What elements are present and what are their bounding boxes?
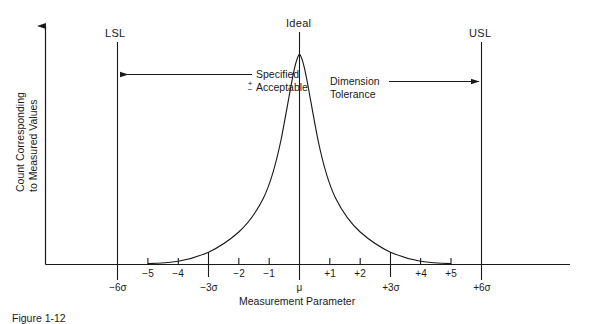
x-tick-label-minus4: −4 [168,268,188,279]
acceptable-annotation-row: + − Acceptable [246,81,306,94]
x-tick-label-plus5: +5 [441,268,461,279]
y-axis-label-line2: to Measured Values [27,99,40,192]
sigma-label-minus3: −3σ [195,282,223,293]
dimension-annotation-line2: Tolerance [330,88,376,101]
x-tick-label-minus2: −2 [229,268,249,279]
lsl-label: LSL [105,27,125,39]
sigma-label-plus3: +3σ [377,282,405,293]
specified-annotation-line2: Acceptable [256,81,308,94]
usl-label: USL [469,27,491,39]
x-axis-label: Measurement Parameter [239,295,355,307]
sigma-label-minus6: −6σ [104,282,132,293]
x-tick-label-plus2: +2 [350,268,370,279]
plus-minus-icon: + − [246,81,254,93]
x-tick-label-minus5: −5 [138,268,158,279]
x-tick-label-minus1: −1 [259,268,279,279]
ideal-label: Ideal [286,17,311,29]
sigma-label-plus6: +6σ [468,282,496,293]
x-tick-label-plus4: +4 [411,268,431,279]
mu-label: μ [292,282,307,293]
x-tick-label-plus1: +1 [320,268,340,279]
figure-caption: Figure 1-12 [12,312,66,324]
dimension-annotation-line1: Dimension [330,75,380,88]
minus-glyph: − [246,87,254,93]
specified-annotation-line1: Specified [256,68,299,81]
y-axis-label-line1: Count Corresponding [14,92,27,192]
